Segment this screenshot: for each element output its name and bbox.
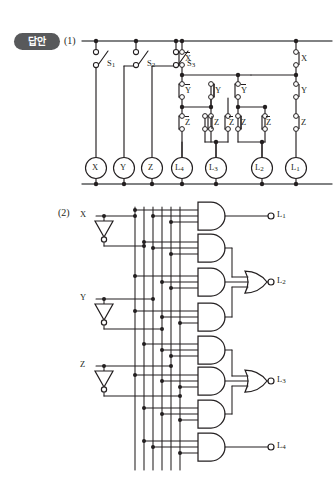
and-gate-5: [198, 336, 225, 364]
switch-terminal: [133, 49, 138, 54]
and-gate-7: [198, 400, 225, 428]
load-label-l3: L3: [209, 162, 218, 173]
and-gate-3: [198, 268, 225, 296]
switch-label-s2: S2: [147, 58, 155, 69]
not-gate-x: [95, 221, 113, 237]
output-label-l2: L2: [277, 275, 286, 286]
switch-terminal: [93, 62, 98, 67]
switch-terminal: [173, 49, 178, 54]
output-terminal-l2: [268, 279, 274, 285]
contact-label-z: Z: [301, 117, 306, 127]
contact-label-z-a: Z: [214, 117, 219, 127]
not-gate-y-bubble: [101, 320, 106, 325]
and-gate-2: [198, 234, 225, 262]
not-gate-z-bubble: [101, 387, 106, 392]
load-label-x: X: [92, 162, 98, 172]
contact-label-noty-b: Y: [241, 85, 247, 95]
figure-root: 답안 (1): [0, 0, 335, 481]
contact-label-y-a: Y: [215, 85, 221, 95]
output-terminal-l4: [268, 444, 274, 450]
load-label-y: Y: [120, 162, 126, 172]
contact-label-notz-b: Z: [266, 117, 271, 127]
logic-gate-circuit: [0, 191, 335, 481]
switch-terminal: [133, 62, 138, 67]
switch-label-s1-sub: 1: [112, 61, 116, 69]
load-label-l1: L1: [291, 162, 300, 173]
load-label-z: Z: [148, 162, 153, 172]
contact-label-notz: Z: [185, 117, 190, 127]
switch-label-s3-sub: 3: [192, 61, 196, 69]
contact-label-x: X: [301, 53, 307, 63]
load-label-l4: L4: [175, 162, 184, 173]
and-gate-1: [198, 202, 225, 230]
contact-label-y: Y: [301, 85, 307, 95]
not-gate-z: [95, 371, 113, 387]
output-terminal-l3: [268, 378, 274, 384]
output-terminal-l1: [268, 213, 274, 219]
relay-ladder-circuit: [0, 0, 335, 195]
contact-label-notx: X: [185, 53, 191, 63]
switch-terminal: [173, 62, 178, 67]
switch-label-s1: S1: [107, 58, 115, 69]
and-gate-6: [198, 367, 225, 395]
load-label-l2: L2: [255, 162, 264, 173]
contact-label-z-b: Z: [241, 117, 246, 127]
input-label-z: Z: [80, 359, 85, 369]
switch-terminal: [93, 49, 98, 54]
not-gate-x-bubble: [101, 237, 106, 242]
contact-label-notz-a: Z: [229, 117, 234, 127]
output-label-l1: L1: [277, 209, 286, 220]
switch-label-s2-sub: 2: [152, 61, 156, 69]
contact-label-noty: Y: [185, 85, 191, 95]
not-gate-y: [95, 304, 113, 320]
and-gate-4: [198, 303, 225, 331]
and-gate-8: [198, 433, 225, 461]
input-label-x: X: [80, 209, 86, 219]
output-label-l4: L4: [277, 440, 286, 451]
output-label-l3: L3: [277, 374, 286, 385]
input-label-y: Y: [80, 292, 86, 302]
